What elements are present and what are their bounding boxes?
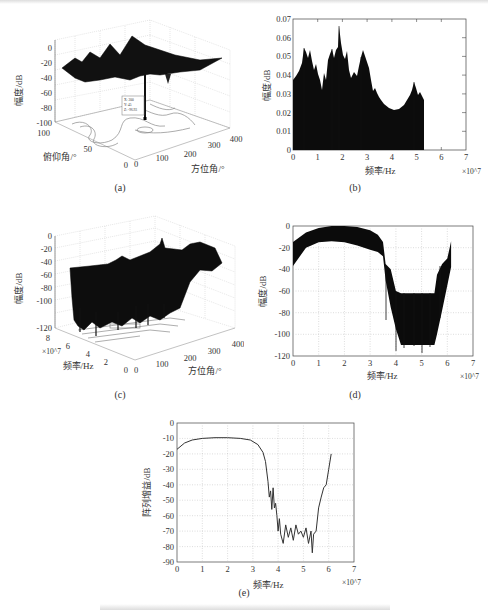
- panel-a-3d-surface: X: 200 Y: 45 Z: -96.93 0 -20 -40 -60 -80…: [0, 0, 244, 180]
- svg-text:3: 3: [368, 358, 372, 368]
- chart-a-svg: X: 200 Y: 45 Z: -96.93 0 -20 -40 -60 -80…: [0, 0, 244, 180]
- svg-text:-120: -120: [274, 351, 290, 361]
- svg-text:200: 200: [184, 353, 197, 363]
- datatip-null[interactable]: X: 200 Y: 45 Z: -96.93: [122, 96, 144, 115]
- svg-text:100: 100: [37, 128, 50, 138]
- panel-b-spectrum: 0 0.01 0.02 0.03 0.04 0.05 0.06 0.07 0 1…: [244, 0, 488, 185]
- svg-text:6: 6: [327, 564, 331, 574]
- caption-b: (b): [335, 182, 375, 193]
- chart-d-svg: 0 -20 -40 -60 -80 -100 -120 0 1 2 3 4 5 …: [244, 208, 488, 383]
- svg-text:0.01: 0.01: [276, 126, 291, 136]
- svg-text:5: 5: [419, 358, 423, 368]
- svg-text:-20: -20: [41, 244, 52, 254]
- svg-text:频率/Hz: 频率/Hz: [365, 165, 396, 176]
- y-axis-label: 俯仰角/°: [43, 151, 77, 162]
- svg-text:-40: -40: [279, 264, 290, 274]
- svg-text:X: 200: X: 200: [124, 98, 134, 102]
- svg-text:5: 5: [301, 564, 305, 574]
- svg-text:0: 0: [48, 231, 52, 241]
- panel-c-3d-surface: 0 -20 -40 -60 -80 -100 -120 幅度/dB 8 6 4 …: [0, 208, 244, 378]
- svg-text:-30: -30: [163, 464, 174, 474]
- panel-d-band: 0 -20 -40 -60 -80 -100 -120 0 1 2 3 4 5 …: [244, 208, 488, 383]
- svg-text:6: 6: [445, 358, 449, 368]
- caption-d: (d): [335, 389, 375, 400]
- svg-text:300: 300: [208, 140, 221, 150]
- svg-text:0.04: 0.04: [276, 70, 292, 80]
- svg-text:-20: -20: [41, 58, 52, 68]
- svg-text:幅度/dB: 幅度/dB: [13, 272, 24, 303]
- z-axis-label: 幅度/dB: [13, 74, 24, 105]
- svg-text:2: 2: [225, 564, 229, 574]
- svg-text:6: 6: [66, 341, 70, 351]
- svg-text:-80: -80: [41, 283, 52, 293]
- svg-text:0: 0: [134, 365, 138, 375]
- svg-text:4: 4: [394, 358, 399, 368]
- svg-text:-20: -20: [279, 243, 290, 253]
- svg-text:50: 50: [84, 144, 93, 154]
- x-axis-label: 方位角/°: [191, 163, 225, 174]
- svg-text:方位角/°: 方位角/°: [188, 365, 222, 376]
- svg-text:4: 4: [390, 152, 395, 162]
- svg-text:0.03: 0.03: [276, 89, 291, 99]
- svg-text:1: 1: [317, 358, 321, 368]
- svg-text:-60: -60: [41, 88, 52, 98]
- svg-text:300: 300: [208, 346, 221, 356]
- svg-text:7: 7: [471, 358, 475, 368]
- svg-text:×10^7: ×10^7: [462, 167, 481, 176]
- svg-text:-60: -60: [279, 286, 290, 296]
- svg-text:0.07: 0.07: [276, 14, 291, 24]
- svg-text:-100: -100: [36, 296, 52, 306]
- caption-c: (c): [100, 389, 140, 400]
- cropped-figure-caption: [100, 604, 390, 610]
- svg-text:-120: -120: [36, 323, 52, 333]
- svg-text:100: 100: [156, 153, 169, 163]
- svg-text:×10^7: ×10^7: [460, 372, 479, 381]
- svg-text:-40: -40: [41, 257, 52, 267]
- svg-text:-100: -100: [274, 329, 290, 339]
- svg-text:0.02: 0.02: [276, 108, 291, 118]
- svg-text:-80: -80: [279, 308, 290, 318]
- chart-b-svg: 0 0.01 0.02 0.03 0.04 0.05 0.06 0.07 0 1…: [244, 0, 488, 185]
- svg-text:-40: -40: [41, 73, 52, 83]
- svg-text:4: 4: [276, 564, 281, 574]
- svg-text:-20: -20: [163, 449, 174, 459]
- svg-text:0: 0: [48, 43, 52, 53]
- svg-text:×10^7: ×10^7: [42, 347, 61, 356]
- svg-text:-70: -70: [163, 526, 174, 536]
- caption-a: (a): [100, 182, 140, 193]
- svg-text:0: 0: [286, 221, 290, 231]
- svg-text:Z: -96.93: Z: -96.93: [124, 108, 137, 112]
- svg-text:4: 4: [86, 349, 91, 359]
- svg-text:7: 7: [352, 564, 356, 574]
- svg-text:0: 0: [170, 418, 174, 428]
- svg-text:0: 0: [124, 160, 128, 170]
- chart-c-svg: 0 -20 -40 -60 -80 -100 -120 幅度/dB 8 6 4 …: [0, 208, 244, 378]
- svg-text:1: 1: [200, 564, 204, 574]
- svg-text:5: 5: [414, 152, 418, 162]
- svg-text:-60: -60: [41, 270, 52, 280]
- svg-text:Y: 45: Y: 45: [124, 103, 132, 107]
- svg-text:0: 0: [291, 358, 295, 368]
- svg-text:0: 0: [291, 152, 295, 162]
- svg-text:200: 200: [184, 149, 197, 159]
- svg-text:6: 6: [439, 152, 443, 162]
- panel-e-array-gain: 0 -10 -20 -30 -40 -50 -60 -70 -80 -90 0 …: [120, 410, 370, 590]
- svg-text:-10: -10: [163, 433, 174, 443]
- svg-text:0: 0: [175, 564, 179, 574]
- svg-text:400: 400: [232, 339, 244, 349]
- caption-e: (e): [224, 587, 264, 598]
- svg-text:频率/Hz: 频率/Hz: [367, 370, 398, 381]
- svg-text:3: 3: [251, 564, 255, 574]
- svg-text:2: 2: [104, 357, 108, 367]
- svg-text:0: 0: [134, 159, 138, 169]
- svg-text:1: 1: [316, 152, 320, 162]
- svg-text:8: 8: [46, 333, 50, 343]
- svg-text:0.06: 0.06: [276, 33, 291, 43]
- svg-text:2: 2: [340, 152, 344, 162]
- svg-text:幅度/dB: 幅度/dB: [261, 69, 272, 100]
- svg-text:频率/Hz: 频率/Hz: [63, 360, 94, 371]
- svg-text:0.05: 0.05: [276, 51, 291, 61]
- svg-text:-80: -80: [41, 103, 52, 113]
- svg-text:-60: -60: [163, 511, 174, 521]
- svg-text:2: 2: [342, 358, 346, 368]
